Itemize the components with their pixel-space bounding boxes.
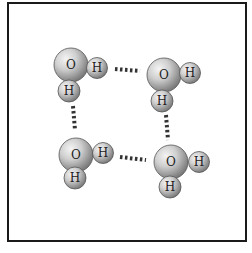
water-molecule: OHH (147, 58, 201, 112)
hydrogen-label: H (194, 155, 204, 169)
hydrogen-bond (115, 69, 140, 71)
water-molecule: OHH (154, 145, 210, 198)
hydrogen-bond (120, 157, 146, 160)
oxygen-label: O (66, 58, 76, 72)
water-molecule: OHH (59, 138, 114, 189)
hydrogen-label: H (185, 66, 195, 80)
oxygen-label: O (166, 155, 176, 169)
hydrogen-label: H (64, 84, 74, 98)
oxygen-label: O (71, 148, 81, 162)
hydrogen-label: H (165, 180, 175, 194)
hydrogen-bond (73, 106, 75, 130)
hydrogen-label: H (157, 94, 167, 108)
hydrogen-bond (166, 115, 168, 140)
water-molecules-diagram: OHHOHHOHHOHH (0, 0, 252, 253)
water-molecule: OHH (54, 48, 108, 102)
hydrogen-label: H (70, 171, 80, 185)
hydrogen-label: H (98, 146, 108, 160)
hydrogen-label: H (92, 61, 102, 75)
oxygen-label: O (159, 68, 169, 82)
